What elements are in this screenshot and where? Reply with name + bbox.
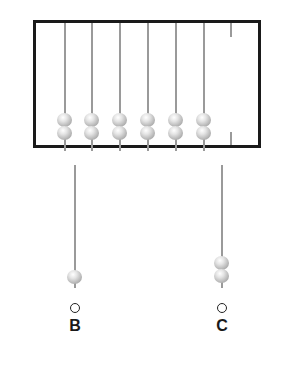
option-b-radio[interactable] [70, 303, 80, 313]
bead [112, 126, 127, 140]
option-c-bead [214, 256, 229, 270]
bead [57, 126, 72, 140]
bead [57, 113, 72, 127]
option-c-bead [214, 269, 229, 283]
abacus-stub-rod-top [230, 23, 232, 37]
option-c-radio[interactable] [217, 303, 227, 313]
option-b-label[interactable]: B [65, 317, 85, 335]
option-b-bead [67, 270, 82, 284]
bead [168, 113, 183, 127]
bead [140, 126, 155, 140]
abacus-stub-rod-bottom [230, 132, 232, 145]
bead [112, 113, 127, 127]
option-c-label[interactable]: C [212, 317, 232, 335]
bead [84, 126, 99, 140]
bead [168, 126, 183, 140]
bead [196, 113, 211, 127]
bead [84, 113, 99, 127]
bead [140, 113, 155, 127]
bead [196, 126, 211, 140]
